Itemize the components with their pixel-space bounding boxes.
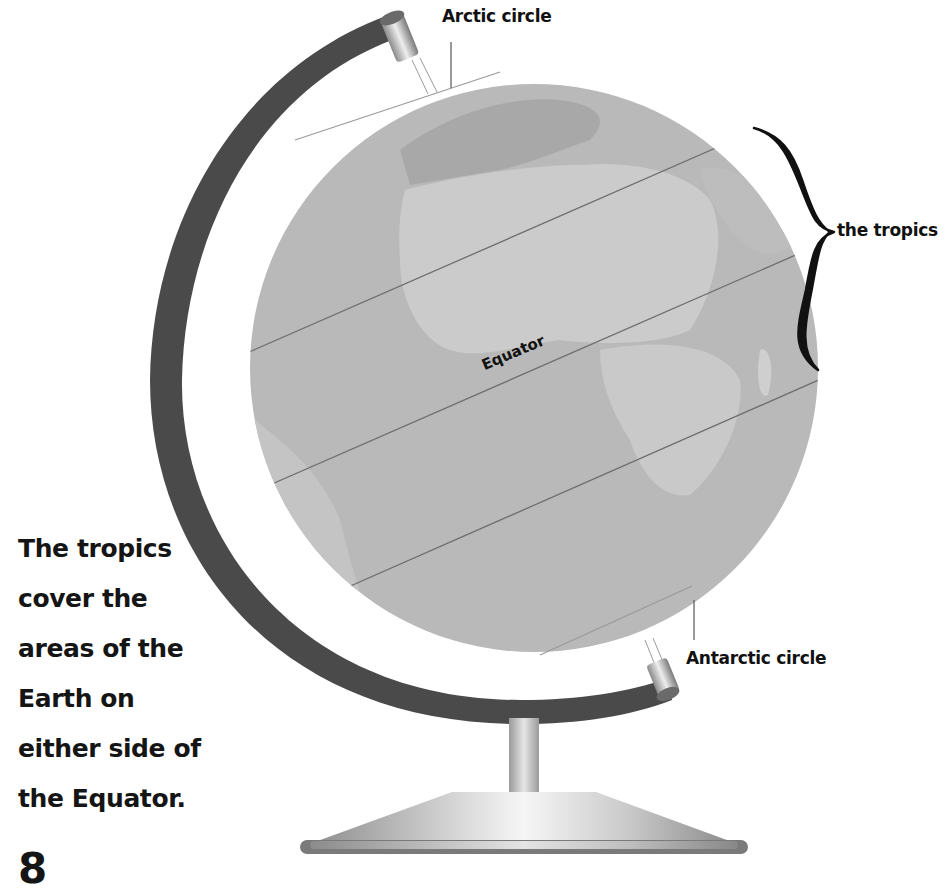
page-number: 8 (18, 848, 47, 888)
antarctic-circle-label: Antarctic circle (686, 648, 826, 668)
globe-stand-icon (300, 792, 748, 854)
caption-text: The tropics cover the areas of the Earth… (18, 524, 248, 824)
caption-line: areas of the (18, 624, 248, 674)
caption-line: Earth on (18, 674, 248, 724)
tropics-label: the tropics (837, 220, 938, 240)
globe-body (240, 70, 840, 670)
arctic-circle-label: Arctic circle (442, 6, 551, 26)
caption-line: the Equator. (18, 774, 248, 824)
caption-line: The tropics (18, 524, 248, 574)
caption-line: cover the (18, 574, 248, 624)
globe-stand-pole (509, 718, 539, 796)
caption-line: either side of (18, 724, 248, 774)
